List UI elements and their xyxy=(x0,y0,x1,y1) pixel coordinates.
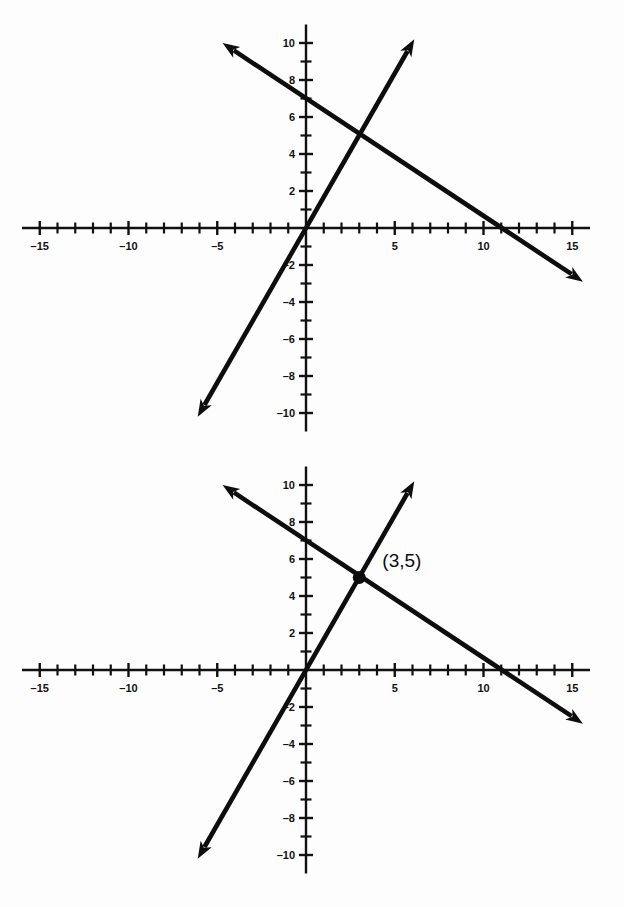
y-tick-label: –6 xyxy=(283,775,295,787)
intersection-point-label: (3,5) xyxy=(382,550,421,571)
x-tick-label: 5 xyxy=(392,240,398,252)
x-tick-label: –5 xyxy=(211,682,223,694)
y-tick-label: –8 xyxy=(283,812,295,824)
x-tick-label: –10 xyxy=(119,240,137,252)
x-tick-label: –5 xyxy=(211,240,223,252)
y-tick-label: 2 xyxy=(289,627,295,639)
series-descending-line xyxy=(223,485,583,724)
y-tick-label: –10 xyxy=(277,407,295,419)
graph-panel-bottom: –15–10–551015108642–2–4–6–8–10(3,5) xyxy=(0,460,624,907)
series-descending-line xyxy=(223,43,583,282)
y-tick-label: 4 xyxy=(289,148,296,160)
y-tick-label: –10 xyxy=(277,849,295,861)
y-tick-label: –6 xyxy=(283,333,295,345)
y-tick-label: 10 xyxy=(283,479,295,491)
y-tick-label: 10 xyxy=(283,37,295,49)
x-tick-label: 15 xyxy=(566,240,578,252)
x-tick-label: –10 xyxy=(119,682,137,694)
y-tick-label: 8 xyxy=(289,74,295,86)
x-tick-label: –15 xyxy=(31,240,49,252)
y-tick-label: 6 xyxy=(289,111,295,123)
x-tick-label: 10 xyxy=(477,240,489,252)
y-tick-label: 2 xyxy=(289,185,295,197)
x-tick-label: 10 xyxy=(477,682,489,694)
graph-panel-top: –15–10–551015108642–2–4–6–8–10 xyxy=(0,0,624,460)
y-tick-label: –8 xyxy=(283,370,295,382)
x-tick-label: 5 xyxy=(392,682,398,694)
coordinate-plane-bottom: –15–10–551015108642–2–4–6–8–10(3,5) xyxy=(0,460,624,907)
y-tick-label: –4 xyxy=(283,296,296,308)
x-tick-label: –15 xyxy=(31,682,49,694)
coordinate-plane-top: –15–10–551015108642–2–4–6–8–10 xyxy=(0,0,624,460)
line-segment xyxy=(234,492,572,716)
y-tick-label: –4 xyxy=(283,738,296,750)
y-tick-label: 6 xyxy=(289,553,295,565)
y-tick-label: 8 xyxy=(289,516,295,528)
y-tick-label: 4 xyxy=(289,590,296,602)
figure-page: –15–10–551015108642–2–4–6–8–10 –15–10–55… xyxy=(0,0,624,907)
x-tick-label: 15 xyxy=(566,682,578,694)
line-segment xyxy=(234,50,572,274)
intersection-point-marker xyxy=(353,571,366,584)
